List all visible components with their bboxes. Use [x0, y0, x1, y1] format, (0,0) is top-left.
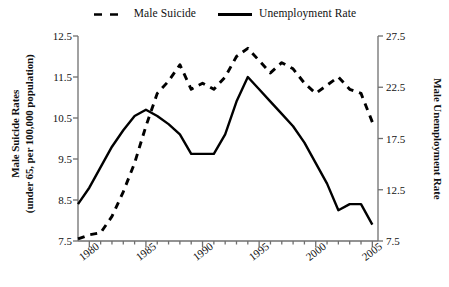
y-axis-right-tick-label: 17.5 [386, 134, 422, 145]
y-axis-left-tick-label: 10.5 [36, 113, 72, 124]
y-axis-right-tick-label: 22.5 [386, 82, 422, 93]
series-line-male-suicide [78, 48, 372, 239]
y-axis-left-tick-label: 11.5 [36, 72, 72, 83]
axis-spines [78, 36, 378, 241]
y-axis-left-tick-label: 12.5 [36, 31, 72, 42]
axis-ticks [73, 36, 383, 247]
y-axis-right-tick-label: 12.5 [386, 185, 422, 196]
series-line-unemployment-rate [78, 77, 372, 225]
y-axis-right-tick-label: 7.5 [386, 236, 422, 247]
y-axis-left-tick-label: 7.5 [36, 236, 72, 247]
chart-figure: Male Suicide Unemployment Rate Male Suic… [0, 0, 449, 287]
y-axis-right-tick-label: 27.5 [386, 31, 422, 42]
data-series-group [78, 48, 372, 239]
y-axis-left-tick-label: 9.5 [36, 154, 72, 165]
y-axis-left-tick-label: 8.5 [36, 195, 72, 206]
